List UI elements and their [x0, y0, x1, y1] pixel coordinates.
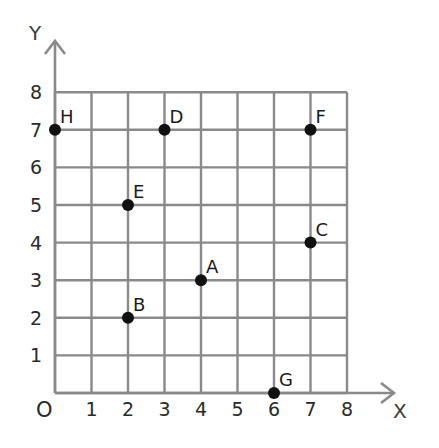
- x-tick-label: 3: [158, 398, 170, 420]
- y-tick-label: 7: [30, 119, 42, 141]
- point-label: D: [170, 106, 184, 127]
- point-D: D: [159, 106, 184, 136]
- y-tick-label: 5: [30, 194, 42, 216]
- y-tick-label: 2: [30, 307, 42, 329]
- x-tick-label: 5: [231, 398, 243, 420]
- grid: [55, 92, 347, 393]
- point-label: A: [206, 256, 219, 277]
- point-label: E: [133, 181, 144, 202]
- y-tick-label: 8: [30, 81, 42, 103]
- y-tick-label: 3: [30, 269, 42, 291]
- coordinate-grid-chart: Y X O 1234567812345678 ABCDEFGH: [0, 0, 439, 448]
- point-label: C: [316, 219, 329, 240]
- y-tick-label: 4: [30, 232, 42, 254]
- point-H: H: [49, 106, 74, 136]
- x-tick-label: 8: [341, 398, 353, 420]
- x-axis-title: X: [393, 399, 407, 423]
- point-label: H: [60, 106, 74, 127]
- x-tick-label: 6: [268, 398, 280, 420]
- point-label: B: [133, 294, 145, 315]
- x-tick-label: 2: [122, 398, 134, 420]
- y-axis-title: Y: [28, 21, 42, 45]
- point-G: G: [268, 369, 293, 399]
- point-label: G: [279, 369, 293, 390]
- y-tick-label: 6: [30, 156, 42, 178]
- tick-labels: 1234567812345678: [30, 81, 353, 420]
- point-B: B: [122, 294, 145, 324]
- x-tick-label: 4: [195, 398, 207, 420]
- y-tick-label: 1: [30, 344, 42, 366]
- x-tick-label: 1: [85, 398, 97, 420]
- point-A: A: [195, 256, 219, 286]
- point-F: F: [305, 106, 326, 136]
- point-C: C: [305, 219, 329, 249]
- origin-label: O: [36, 398, 53, 422]
- point-E: E: [122, 181, 144, 211]
- x-tick-label: 7: [304, 398, 316, 420]
- point-label: F: [316, 106, 326, 127]
- axes: Y X O: [28, 21, 407, 423]
